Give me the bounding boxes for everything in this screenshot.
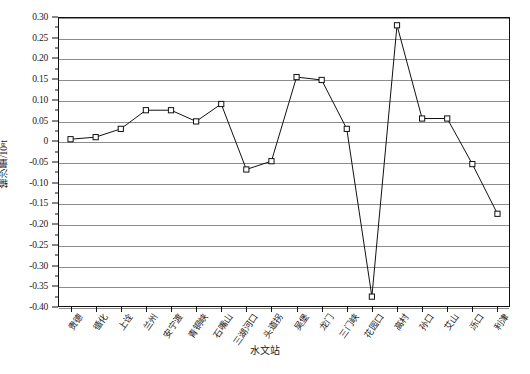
y-tick-label: -0.35 bbox=[29, 281, 48, 291]
x-tick-mark bbox=[196, 307, 197, 312]
y-tick-label: -0.05 bbox=[29, 157, 48, 167]
x-tick-label: 循化 bbox=[89, 311, 110, 333]
x-tick-label: 安宁渡 bbox=[160, 311, 186, 341]
x-tick-label: 贵德 bbox=[64, 311, 85, 333]
data-point-marker bbox=[68, 137, 73, 142]
y-tick-label: 0.10 bbox=[32, 95, 48, 105]
x-tick-mark bbox=[146, 307, 147, 312]
x-tick-label: 泺口 bbox=[466, 311, 487, 333]
data-point-marker bbox=[244, 167, 249, 172]
data-point-marker bbox=[344, 126, 349, 131]
x-tick-label: 高村 bbox=[391, 311, 412, 333]
x-tick-mark bbox=[347, 307, 348, 312]
x-tick-label: 吴堡 bbox=[290, 311, 311, 333]
x-tick-mark bbox=[221, 307, 222, 312]
data-series bbox=[58, 17, 510, 307]
data-point-marker bbox=[420, 116, 425, 121]
y-tick-label: -0.20 bbox=[29, 219, 48, 229]
data-point-marker bbox=[219, 101, 224, 106]
data-point-marker bbox=[369, 294, 374, 299]
y-tick-label: 0.05 bbox=[32, 116, 48, 126]
data-point-marker bbox=[294, 74, 299, 79]
x-tick-mark bbox=[447, 307, 448, 312]
x-tick-label: 孙口 bbox=[416, 311, 437, 333]
x-tick-label: 三门峡 bbox=[335, 311, 361, 341]
x-tick-label: 上诠 bbox=[114, 311, 135, 333]
data-point-marker bbox=[319, 77, 324, 82]
x-tick-mark bbox=[297, 307, 298, 312]
data-point-marker bbox=[168, 108, 173, 113]
x-tick-mark bbox=[472, 307, 473, 312]
y-tick-label: 0.25 bbox=[32, 33, 48, 43]
y-tick-label: -0.15 bbox=[29, 198, 48, 208]
data-point-marker bbox=[445, 116, 450, 121]
x-tick-label: 利津 bbox=[491, 311, 512, 333]
x-tick-label: 青铜峡 bbox=[185, 311, 211, 341]
x-tick-mark bbox=[397, 307, 398, 312]
data-point-marker bbox=[470, 161, 475, 166]
x-tick-mark bbox=[497, 307, 498, 312]
y-tick-label: 0.20 bbox=[32, 53, 48, 63]
x-tick-mark bbox=[71, 307, 72, 312]
y-tick-label: 0.15 bbox=[32, 74, 48, 84]
y-tick-label: -0.10 bbox=[29, 178, 48, 188]
x-tick-label: 龙门 bbox=[315, 311, 336, 333]
x-tick-mark bbox=[422, 307, 423, 312]
x-tick-label: 兰州 bbox=[140, 311, 161, 333]
data-point-marker bbox=[495, 211, 500, 216]
x-tick-mark bbox=[96, 307, 97, 312]
data-point-marker bbox=[143, 108, 148, 113]
y-tick-label: -0.30 bbox=[29, 261, 48, 271]
data-point-marker bbox=[269, 159, 274, 164]
x-tick-mark bbox=[246, 307, 247, 312]
y-tick-label: 0 bbox=[43, 136, 48, 146]
x-axis-title: 水文站 bbox=[0, 342, 530, 357]
x-tick-label: 头道拐 bbox=[260, 311, 286, 341]
x-tick-mark bbox=[271, 307, 272, 312]
x-tick-mark bbox=[372, 307, 373, 312]
y-tick-label: -0.40 bbox=[29, 302, 48, 312]
x-tick-mark bbox=[322, 307, 323, 312]
chart-figure: 0.300.250.200.150.100.050-0.05-0.10-0.15… bbox=[0, 0, 530, 374]
y-tick-label: -0.25 bbox=[29, 240, 48, 250]
y-tick-label: 0.30 bbox=[32, 12, 48, 22]
data-point-marker bbox=[93, 135, 98, 140]
series-line bbox=[71, 25, 498, 296]
gridline bbox=[59, 308, 509, 309]
data-point-marker bbox=[118, 126, 123, 131]
x-tick-mark bbox=[121, 307, 122, 312]
y-axis-title: 输沙量/10⁸t bbox=[0, 140, 13, 188]
x-tick-mark bbox=[171, 307, 172, 312]
x-tick-label: 艾山 bbox=[441, 311, 462, 333]
data-point-marker bbox=[394, 23, 399, 28]
data-point-marker bbox=[194, 119, 199, 124]
x-tick-label: 花园口 bbox=[360, 311, 386, 341]
